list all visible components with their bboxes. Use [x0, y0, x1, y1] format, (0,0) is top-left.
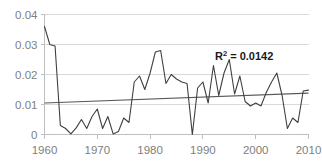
x-tick-label: 2000 [243, 144, 269, 156]
r-squared-annotation: R2 = 0.0142 [215, 49, 273, 63]
line-chart: 00.010.020.030.04 1960197019801990200020… [0, 0, 322, 168]
y-tick-label: 0.04 [15, 9, 38, 21]
y-axis-tick-labels: 00.010.020.030.04 [15, 9, 38, 141]
y-tick-label: 0.03 [15, 39, 37, 51]
gridlines-group [45, 15, 309, 135]
r-squared-value: = 0.0142 [227, 50, 273, 62]
x-tick-label: 1960 [32, 144, 58, 156]
x-tick-label: 2010 [296, 144, 322, 156]
x-tick-label: 1980 [137, 144, 163, 156]
r-squared-prefix: R [215, 50, 223, 62]
x-tick-label: 1990 [190, 144, 216, 156]
chart-container: 00.010.020.030.04 1960197019801990200020… [0, 0, 322, 168]
y-tick-label: 0 [31, 129, 37, 141]
data-series-line [45, 27, 309, 135]
y-tick-label: 0.01 [15, 99, 37, 111]
x-axis-tick-labels: 196019701980199020002010 [32, 144, 322, 156]
x-tick-label: 1970 [85, 144, 111, 156]
trendline [45, 93, 309, 103]
y-tick-label: 0.02 [15, 69, 37, 81]
